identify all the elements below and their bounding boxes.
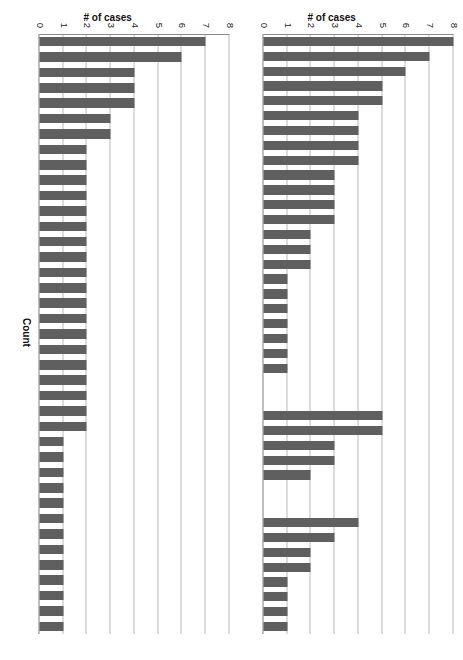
bar	[263, 456, 334, 465]
bar	[263, 518, 358, 527]
bar	[263, 245, 311, 254]
bar	[39, 575, 63, 585]
bar	[39, 206, 87, 216]
y-tick-6: 6	[401, 8, 411, 28]
bar	[39, 591, 63, 601]
bar	[39, 145, 87, 155]
bar	[39, 375, 87, 385]
bar	[263, 607, 287, 616]
bar	[39, 545, 63, 555]
bar	[39, 622, 63, 632]
bar	[263, 156, 358, 165]
category-axis-bottom	[39, 34, 229, 35]
bar	[39, 283, 87, 293]
bar	[263, 170, 334, 179]
bar	[263, 274, 287, 283]
bar	[263, 334, 287, 343]
bar	[263, 470, 311, 479]
y-tick-0: 0	[258, 8, 268, 28]
chart-panel-bottom: 012345678 # of cases Count	[11, 0, 233, 660]
y-tick-0: 0	[34, 8, 44, 28]
category-axis-top	[263, 34, 453, 35]
bar	[263, 230, 311, 239]
bar	[263, 37, 453, 46]
bar	[263, 67, 406, 76]
bar	[39, 437, 63, 447]
bar	[263, 563, 311, 572]
bar	[263, 441, 334, 450]
bar	[39, 268, 87, 278]
y-tick-5: 5	[153, 8, 163, 28]
bar	[263, 111, 358, 120]
bar	[39, 83, 134, 93]
bar	[263, 96, 382, 105]
bar	[39, 360, 87, 370]
bar	[39, 391, 87, 401]
bar	[39, 498, 63, 508]
bar	[39, 406, 87, 416]
bar	[263, 126, 358, 135]
bar	[263, 364, 287, 373]
bars-bottom	[39, 34, 229, 634]
bar	[263, 52, 429, 61]
bar	[263, 289, 287, 298]
bar	[39, 329, 87, 339]
bar	[39, 422, 87, 432]
bar	[39, 298, 87, 308]
y-axis-title-top: # of cases	[307, 12, 355, 23]
bar	[263, 533, 334, 542]
bar	[39, 560, 63, 570]
bar	[39, 606, 63, 616]
bar	[39, 68, 134, 78]
bar	[263, 426, 382, 435]
bar	[39, 52, 182, 62]
bar	[39, 98, 134, 108]
bar	[39, 237, 87, 247]
bar	[263, 304, 287, 313]
bar	[263, 319, 287, 328]
bar	[263, 592, 287, 601]
bar	[39, 345, 87, 355]
bar	[263, 349, 287, 358]
bar	[39, 129, 110, 139]
y-tick-7: 7	[424, 8, 434, 28]
plot-area-bottom	[39, 34, 229, 634]
bar	[263, 141, 358, 150]
bar	[263, 215, 334, 224]
bar	[39, 452, 63, 462]
y-tick-8: 8	[448, 8, 458, 28]
chart-figure: 012345678 # of cases 012345678 # of case…	[0, 0, 463, 660]
bar	[39, 483, 63, 493]
bar	[39, 175, 87, 185]
bar	[39, 114, 110, 124]
bar	[263, 548, 311, 557]
bar	[263, 81, 382, 90]
bars-top	[263, 34, 453, 634]
bar	[263, 260, 311, 269]
y-tick-1: 1	[282, 8, 292, 28]
y-tick-6: 6	[177, 8, 187, 28]
bar	[39, 160, 87, 170]
bar	[39, 191, 87, 201]
bar	[39, 314, 87, 324]
bar	[263, 622, 287, 631]
bar	[263, 577, 287, 586]
bar	[39, 529, 63, 539]
y-tick-5: 5	[377, 8, 387, 28]
bar	[39, 37, 205, 47]
bar	[263, 411, 382, 420]
bar	[263, 200, 334, 209]
y-tick-1: 1	[58, 8, 68, 28]
bar	[39, 468, 63, 478]
bar	[263, 185, 334, 194]
y-tick-8: 8	[224, 8, 234, 28]
y-axis-title-bottom: # of cases	[83, 12, 131, 23]
bar	[39, 514, 63, 524]
chart-panel-top: 012345678 # of cases	[245, 0, 457, 660]
bar	[39, 252, 87, 262]
plot-area-top	[263, 34, 453, 634]
y-tick-7: 7	[200, 8, 210, 28]
bar	[39, 222, 87, 232]
x-axis-title: Count	[20, 318, 31, 347]
